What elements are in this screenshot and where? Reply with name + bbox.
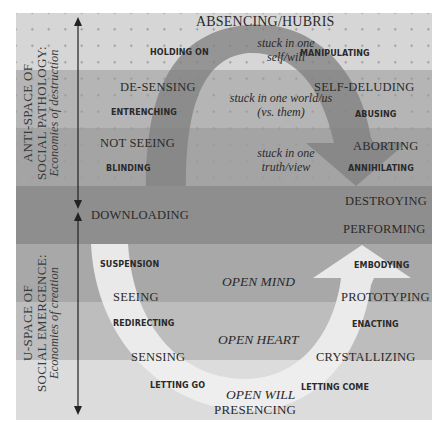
holding-on-label: HOLDING ON: [150, 49, 209, 57]
arrow-down-bottom-icon: [74, 406, 82, 415]
open-mind-label: OPEN MIND: [222, 275, 295, 289]
annihilating-label: ANNIHILATING: [348, 165, 414, 173]
open-will-label: OPEN WILL: [226, 388, 295, 402]
performing-label: PERFORMING: [343, 223, 426, 236]
anti-space-label: ANTI-SPACE OF SOCIAL PATHOLOGY: Economie…: [21, 28, 71, 198]
arrow-down-mid-icon: [74, 200, 82, 209]
suspension-label: SUSPENSION: [100, 261, 159, 269]
destroying-label: DESTROYING: [345, 195, 427, 208]
redirecting-label: REDIRECTING: [113, 320, 175, 328]
stuck-world-line2: (vs. them): [211, 106, 351, 118]
anti-space-line3: Economies of destruction: [48, 28, 61, 198]
anti-space-line2: SOCIAL PATHOLOGY:: [35, 28, 49, 198]
manipulating-label: MANIPULATING: [300, 50, 370, 58]
arrow-up-top-icon: [74, 17, 82, 26]
crystallizing-label: CRYSTALLIZING: [316, 351, 416, 364]
anti-space-line1: ANTI-SPACE OF: [21, 28, 35, 198]
self-deluding-label: SELF-DELUDING: [314, 81, 415, 94]
arrow-up-mid-icon: [74, 212, 82, 221]
letting-go-label: LETTING GO: [150, 382, 205, 390]
aborting-label: ABORTING: [353, 140, 418, 153]
u-space-line3: Economies of creation: [48, 238, 61, 408]
entrenching-label: ENTRENCHING: [111, 109, 177, 117]
letting-come-label: LETTING COME: [301, 384, 369, 392]
stuck-world-us-label: stuck in one world/us (vs. them): [211, 92, 351, 118]
stuck-truth-line1: stuck in one: [236, 147, 336, 159]
u-space-line2: SOCIAL EMERGENCE:: [35, 238, 49, 408]
stuck-self-line1: stuck in one: [241, 37, 331, 49]
open-heart-label: OPEN HEART: [218, 333, 299, 347]
u-theory-diagram: ANTI-SPACE OF SOCIAL PATHOLOGY: Economie…: [16, 13, 432, 420]
prototyping-label: PROTOTYPING: [341, 291, 430, 304]
u-space-line1: U-SPACE OF: [21, 238, 35, 408]
stuck-truth-line2: truth/view: [236, 161, 336, 173]
blinding-label: BLINDING: [106, 165, 151, 173]
presencing-label: PRESENCING: [214, 403, 296, 416]
abusing-label: ABUSING: [355, 111, 397, 119]
not-seeing-label: NOT SEEING: [100, 137, 175, 150]
absencing-hubris-label: ABSENCING/HUBRIS: [196, 15, 335, 29]
embodying-label: EMBODYING: [354, 262, 409, 270]
stuck-truth-view-label: stuck in one truth/view: [236, 147, 336, 173]
seeing-label: SEEING: [113, 291, 159, 304]
enacting-label: ENACTING: [352, 321, 399, 329]
de-sensing-label: DE-SENSING: [120, 81, 196, 94]
u-space-label: U-SPACE OF SOCIAL EMERGENCE: Economies o…: [21, 238, 71, 408]
downloading-label: DOWNLOADING: [91, 209, 189, 222]
sensing-label: SENSING: [131, 351, 185, 364]
